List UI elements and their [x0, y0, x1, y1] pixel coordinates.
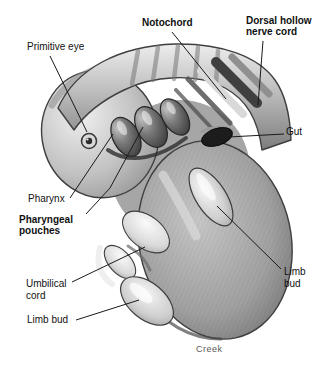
label-notochord: Notochord	[142, 17, 193, 28]
label-primitive-eye: Primitive eye	[27, 41, 84, 52]
label-dorsal-hollow-nerve-cord: Dorsal hollow nerve cord	[246, 15, 312, 37]
label-limb-bud-left: Limb bud	[27, 314, 68, 325]
primitive-eye-shape	[82, 134, 97, 149]
label-gut: Gut	[286, 126, 302, 137]
label-limb-bud-right: Limb bud	[284, 266, 306, 290]
label-pharynx: Pharynx	[28, 193, 65, 204]
embryo-diagram: Primitive eye Notochord Dorsal hollow ne…	[0, 0, 329, 373]
leader-limb-bud-left	[76, 300, 139, 320]
artist-signature: Creek	[196, 344, 223, 354]
label-umbilical-cord: Umbilical cord	[26, 278, 67, 302]
label-pharyngeal-pouches: Pharyngeal pouches	[19, 214, 73, 236]
